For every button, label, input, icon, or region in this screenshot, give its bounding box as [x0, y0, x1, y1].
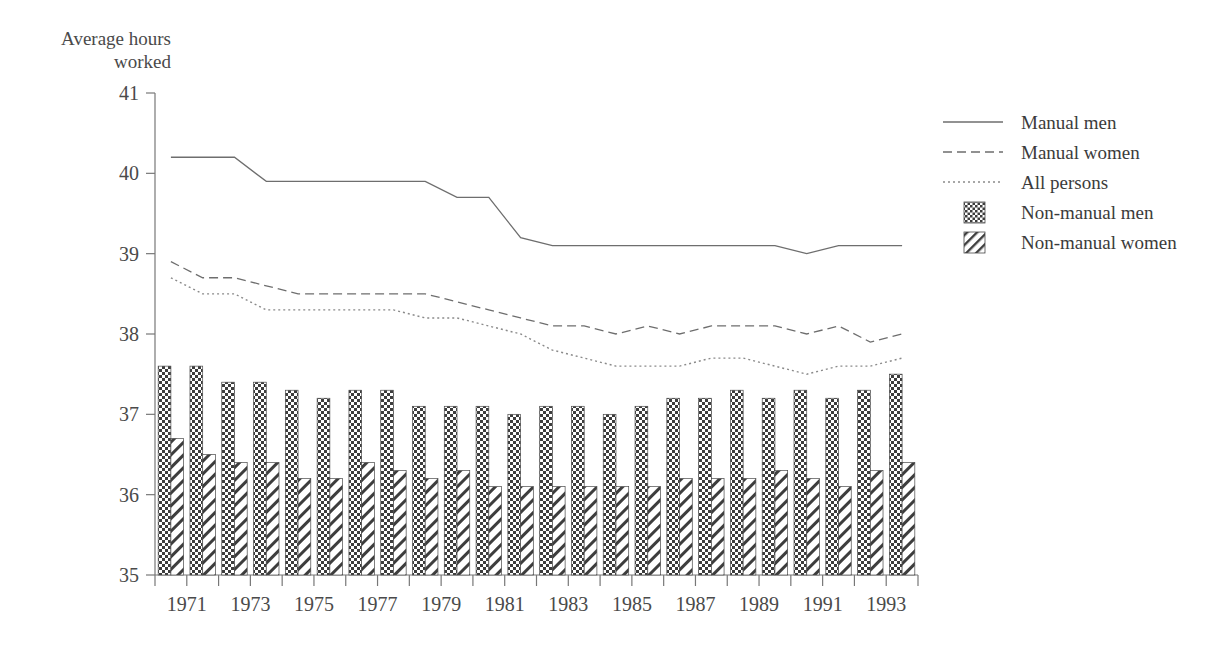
line-all-persons	[171, 278, 902, 374]
bar-hatch	[171, 438, 184, 575]
bar-checker	[381, 390, 394, 575]
bar-hatch	[807, 479, 820, 575]
bar-checker	[667, 398, 680, 575]
bar-checker	[508, 414, 521, 575]
bar-hatch	[425, 479, 438, 575]
bar-hatch	[203, 455, 216, 576]
bar-checker	[413, 406, 426, 575]
bar-hatch	[457, 471, 470, 575]
x-axis-tick-label: 1991	[803, 593, 843, 615]
bar-checker	[476, 406, 489, 575]
bar-checker	[858, 390, 871, 575]
chart-legend: Manual menManual womenAll personsNon-man…	[943, 112, 1177, 253]
bar-checker	[349, 390, 362, 575]
x-axis-tick-label: 1979	[421, 593, 461, 615]
legend-item: Non-manual women	[964, 232, 1177, 253]
bar-hatch	[489, 487, 502, 575]
x-axis-tick-label: 1981	[485, 593, 525, 615]
legend-item: Non-manual men	[964, 202, 1154, 223]
y-axis-title-line1: Average hours	[61, 28, 171, 49]
line-manual-men	[171, 157, 902, 253]
legend-label: Non-manual women	[1021, 232, 1177, 253]
x-axis-tick-label: 1989	[739, 593, 779, 615]
bar-checker	[571, 406, 584, 575]
y-axis-title: Average hours worked	[61, 28, 171, 72]
bar-hatch	[298, 479, 311, 575]
x-axis-tick-label: 1975	[294, 593, 334, 615]
bar-checker	[222, 382, 235, 575]
bar-hatch	[521, 487, 534, 575]
hatch-box-swatch	[964, 232, 985, 253]
bar-checker	[826, 398, 839, 575]
bar-checker	[635, 406, 648, 575]
bar-hatch	[839, 487, 852, 575]
bar-checker	[285, 390, 298, 575]
bar-checker	[730, 390, 743, 575]
y-axis-title-line2: worked	[114, 51, 171, 72]
bar-hatch	[266, 463, 279, 575]
bar-checker	[794, 390, 807, 575]
checker-box-swatch	[964, 202, 985, 223]
bar-checker	[158, 366, 171, 575]
x-axis-tick-label: 1987	[675, 593, 715, 615]
line-series-group	[171, 157, 902, 374]
bar-checker	[317, 398, 330, 575]
legend-label: Non-manual men	[1021, 202, 1154, 223]
average-hours-worked-chart: Average hours worked 35363738394041 1971…	[0, 0, 1214, 652]
y-axis-tick-label: 38	[119, 323, 139, 345]
bar-checker	[540, 406, 553, 575]
x-axis-tick-label: 1993	[866, 593, 906, 615]
bar-checker	[603, 414, 616, 575]
legend-item: Manual men	[943, 112, 1117, 133]
bar-checker	[889, 374, 902, 575]
x-axis-tick-label: 1971	[167, 593, 207, 615]
bar-hatch	[711, 479, 724, 575]
bar-hatch	[870, 471, 883, 575]
chart-container: Average hours worked 35363738394041 1971…	[0, 0, 1214, 652]
bar-hatch	[902, 463, 915, 575]
y-axis-tick-label: 39	[119, 243, 139, 265]
y-axis-tick-label: 36	[119, 484, 139, 506]
bar-hatch	[234, 463, 247, 575]
bar-hatch	[680, 479, 693, 575]
legend-label: Manual men	[1021, 112, 1117, 133]
x-axis-tick-label: 1983	[548, 593, 588, 615]
bar-hatch	[775, 471, 788, 575]
bar-hatch	[743, 479, 756, 575]
bar-hatch	[552, 487, 565, 575]
y-axis: 35363738394041	[119, 82, 155, 586]
bar-checker	[699, 398, 712, 575]
x-axis-tick-label: 1973	[230, 593, 270, 615]
bar-checker	[444, 406, 457, 575]
bar-hatch	[362, 463, 375, 575]
bar-hatch	[330, 479, 343, 575]
y-axis-tick-label: 37	[119, 403, 139, 425]
line-manual-women	[171, 262, 902, 342]
y-axis-tick-label: 41	[119, 82, 139, 104]
x-axis-tick-label: 1985	[612, 593, 652, 615]
bar-series-group	[158, 366, 915, 575]
legend-item: All persons	[943, 172, 1108, 193]
bar-checker	[762, 398, 775, 575]
bar-hatch	[393, 471, 406, 575]
y-axis-tick-label: 35	[119, 564, 139, 586]
bar-checker	[254, 382, 267, 575]
legend-label: Manual women	[1021, 142, 1140, 163]
bar-hatch	[616, 487, 629, 575]
x-axis: 1971197319751977197919811983198519871989…	[155, 575, 918, 615]
legend-item: Manual women	[943, 142, 1140, 163]
legend-label: All persons	[1021, 172, 1108, 193]
y-axis-tick-label: 40	[119, 162, 139, 184]
bar-checker	[190, 366, 203, 575]
bar-hatch	[584, 487, 597, 575]
x-axis-tick-label: 1977	[358, 593, 398, 615]
bar-hatch	[648, 487, 661, 575]
